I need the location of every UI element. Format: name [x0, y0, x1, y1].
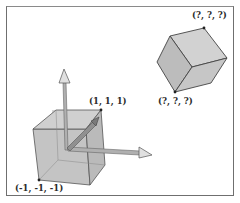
unit-cube-min-vertex: [38, 179, 41, 182]
x-axis-arrowhead-icon: [139, 147, 152, 158]
rotated-cube-bottom-label: (?, ?, ?): [158, 96, 193, 107]
rotated-cube-top-vertex: [203, 27, 206, 30]
rotated-cube-bottom-vertex: [174, 91, 177, 94]
unit-cube-min-label: (-1, -1, -1): [15, 183, 63, 194]
y-axis-arrowhead-icon: [59, 69, 70, 83]
cube-diagram: (?, ?, ?) (?, ?, ?) (1, 1, 1) (-1, -1, -…: [0, 0, 240, 203]
rotated-cube: [157, 27, 227, 94]
rotated-cube-top-label: (?, ?, ?): [192, 10, 227, 21]
unit-cube-max-vertex: [100, 109, 103, 112]
unit-cube-max-label: (1, 1, 1): [89, 96, 127, 107]
